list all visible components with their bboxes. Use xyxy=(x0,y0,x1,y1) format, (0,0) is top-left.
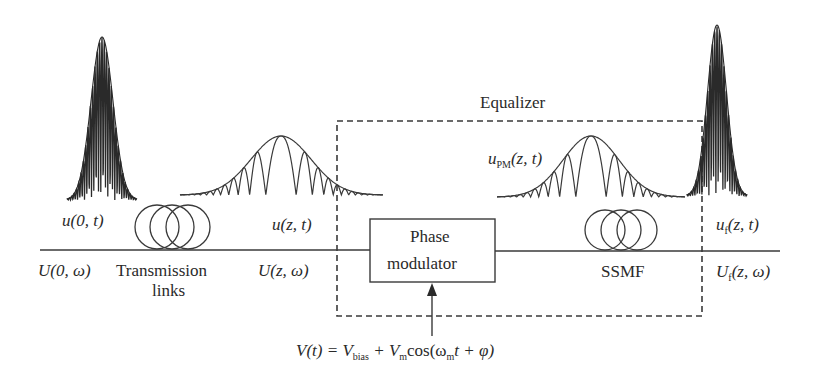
output-pulse-waveform xyxy=(687,25,748,196)
drive-arrow-head xyxy=(427,283,437,296)
label-upm-args: (z, t) xyxy=(511,149,542,168)
label-links: links xyxy=(152,282,185,299)
dispersed-pulse-waveform xyxy=(180,136,383,195)
label-upm: uPM(z, t) xyxy=(488,150,542,170)
eq-bias-sub: bias xyxy=(353,351,369,362)
label-Uzw: U(z, ω) xyxy=(258,262,309,279)
ssmf-coil-icon xyxy=(585,210,657,250)
label-equalizer: Equalizer xyxy=(480,94,545,111)
eq-plus: + V xyxy=(369,341,399,360)
label-uf: uf(z, t) xyxy=(716,216,759,236)
label-U0w: U(0, ω) xyxy=(38,262,91,279)
label-ssmf: SSMF xyxy=(601,263,644,280)
input-pulse-waveform xyxy=(67,37,137,200)
eq-cos: cos(ω xyxy=(407,341,447,360)
label-modulator: modulator xyxy=(387,255,457,272)
eq-V: V(t) = V xyxy=(296,341,353,360)
label-Uf-main: U xyxy=(716,262,728,281)
transmission-links-coil-icon xyxy=(135,205,210,249)
eq-tail: t + φ) xyxy=(454,341,494,360)
label-transmission: Transmission xyxy=(116,262,207,279)
eq-m-sub: m xyxy=(399,351,407,362)
label-uzt: u(z, t) xyxy=(272,216,312,233)
drive-signal-equation: V(t) = Vbias + Vmcos(ωmt + φ) xyxy=(296,342,494,362)
label-uf-main: u xyxy=(716,215,725,234)
label-uf-args: (z, t) xyxy=(728,215,759,234)
label-u0t: u(0, t) xyxy=(62,212,104,229)
label-Uf: Uf(z, ω) xyxy=(716,263,770,283)
label-phase: Phase xyxy=(410,228,450,245)
label-upm-sub: PM xyxy=(497,159,511,170)
label-upm-main: u xyxy=(488,149,497,168)
label-Uf-args: (z, ω) xyxy=(732,262,770,281)
diagram-canvas xyxy=(0,0,824,389)
